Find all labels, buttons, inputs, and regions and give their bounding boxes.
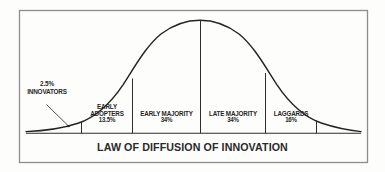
innovators-leader-dot <box>68 125 70 127</box>
innovators-callout-label: 2.5% INNOVATORS <box>13 80 80 97</box>
segment-label-late-majority: LATE MAJORITY 34% <box>205 110 260 125</box>
early-adopters-percent: 13.5% <box>86 117 129 124</box>
figure-title: LAW OF DIFFUSION OF INNOVATION <box>15 140 369 153</box>
segment-label-early-majority: EARLY MAJORITY 34% <box>138 110 196 125</box>
laggards-percent: 16% <box>270 117 313 124</box>
segment-label-early-adopters: EARLY ADOPTERS 13.5% <box>86 103 129 125</box>
innovators-leader-line <box>47 105 69 127</box>
innovators-text: INNOVATORS <box>27 87 67 96</box>
late-majority-percent: 34% <box>205 117 260 124</box>
diffusion-of-innovation-figure: 2.5% INNOVATORS EARLY ADOPTERS 13.5% EAR… <box>0 0 385 172</box>
early-majority-percent: 34% <box>138 117 196 124</box>
segment-label-laggards: LAGGARDS 16% <box>270 110 313 125</box>
